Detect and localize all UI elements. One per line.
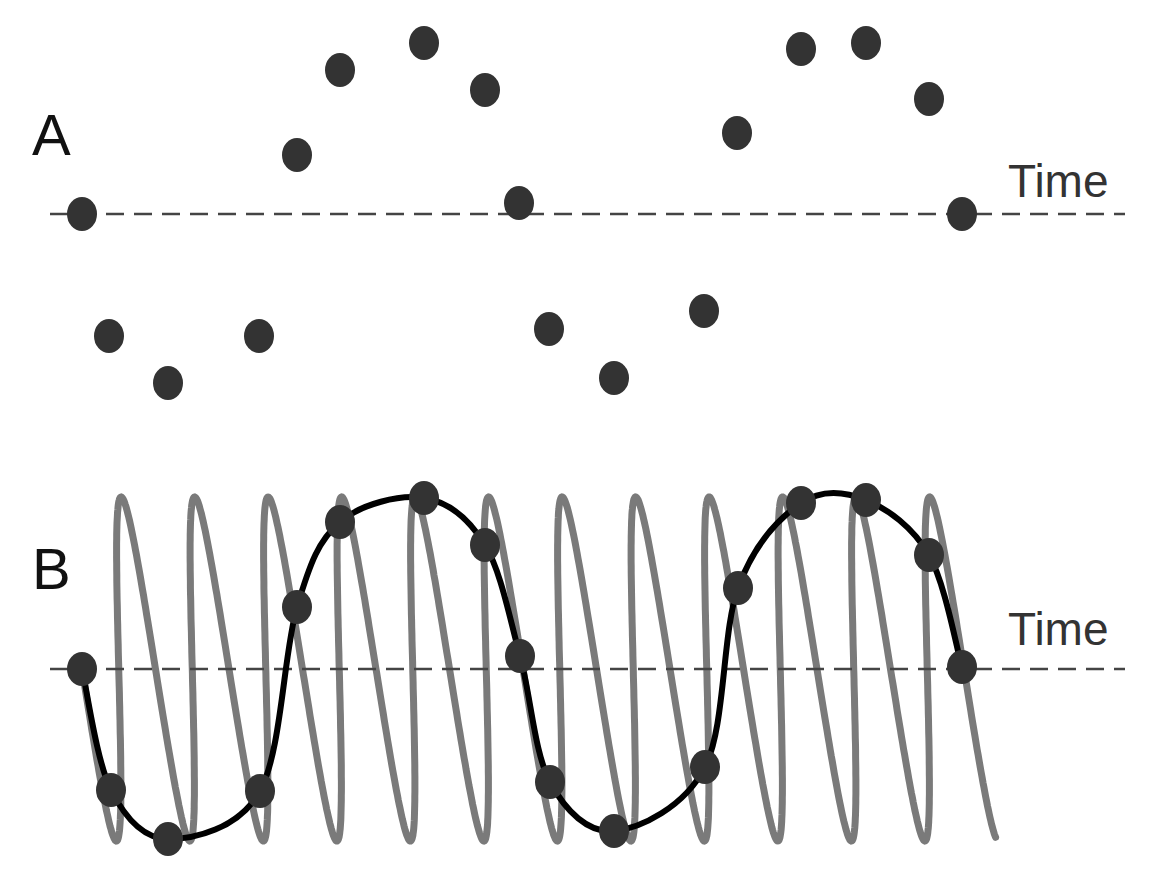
sample-point	[851, 483, 881, 517]
sample-point	[947, 197, 977, 231]
sample-point	[470, 528, 500, 562]
sample-point	[914, 82, 944, 116]
sample-point	[723, 571, 753, 605]
sample-point	[786, 32, 816, 66]
sample-point	[153, 366, 183, 400]
sample-point	[504, 186, 534, 220]
sample-point	[914, 538, 944, 572]
sample-point	[67, 197, 97, 231]
sample-point	[505, 639, 535, 673]
sample-point	[67, 652, 97, 686]
sample-point	[153, 822, 183, 856]
sample-point	[325, 53, 355, 87]
diagram-canvas	[0, 0, 1162, 870]
sample-point	[786, 486, 816, 520]
sample-point	[722, 116, 752, 150]
sample-point	[325, 505, 355, 539]
sample-point	[244, 319, 274, 353]
sample-point	[947, 650, 977, 684]
sample-point	[409, 26, 439, 60]
sample-point	[690, 750, 720, 784]
sample-point	[535, 765, 565, 799]
sample-point	[599, 361, 629, 395]
sample-point	[599, 814, 629, 848]
sample-point	[534, 312, 564, 346]
sample-point	[409, 481, 439, 515]
panel-a-sampled-points	[50, 26, 1125, 400]
sample-point	[470, 73, 500, 107]
panel-b-aliased-signal	[50, 481, 1125, 856]
sample-point	[96, 773, 126, 807]
sample-point	[282, 590, 312, 624]
sample-point	[851, 26, 881, 60]
sample-point	[282, 138, 312, 172]
sample-point	[689, 294, 719, 328]
sample-point	[94, 319, 124, 353]
aliasing-figure: A Time B Time	[0, 0, 1162, 870]
sample-point	[245, 774, 275, 808]
